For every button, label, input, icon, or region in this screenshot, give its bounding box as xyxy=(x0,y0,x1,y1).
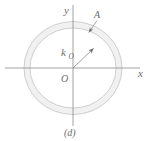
x-axis-label: x xyxy=(137,67,143,79)
figure-caption: (d) xyxy=(64,127,76,139)
radial-vector-arrow xyxy=(73,49,94,69)
ring-label-a: A xyxy=(93,9,101,20)
figure-container: y x O A k O (d) xyxy=(0,0,153,141)
y-axis-label: y xyxy=(63,4,69,16)
origin-label: O xyxy=(61,73,68,84)
vector-label-k: k xyxy=(61,46,67,58)
vector-subscript-o: O xyxy=(69,52,75,61)
ring-coordinate-diagram: y x O A k O (d) xyxy=(0,0,153,141)
vector-label-group: k O xyxy=(61,46,75,61)
